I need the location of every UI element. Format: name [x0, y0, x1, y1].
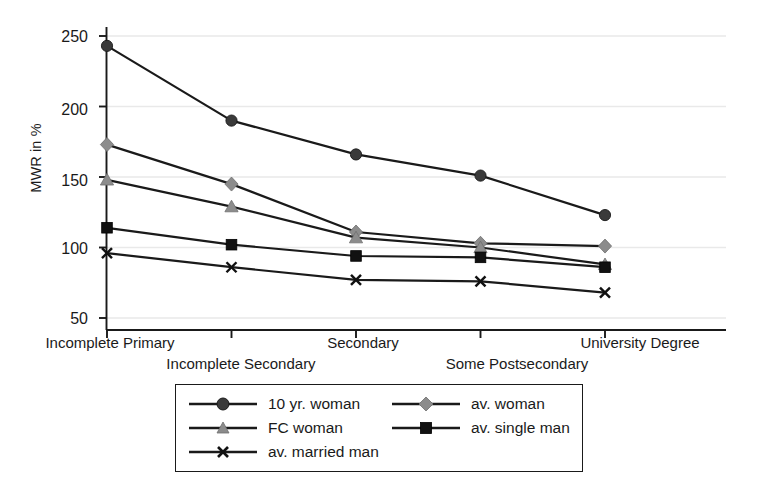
data-point	[475, 170, 486, 181]
chart-legend: 10 yr. woman FC woman av. married man	[175, 384, 583, 472]
data-point	[598, 239, 611, 253]
data-point	[225, 177, 238, 191]
data-point	[226, 239, 237, 250]
data-point	[100, 173, 113, 185]
chart-figure: MWR in % 250 200 150 100 50 Incomplete P…	[0, 0, 758, 498]
legend-entry-fc-woman: FC woman	[187, 416, 343, 440]
series-line	[107, 46, 605, 215]
triangle-marker-icon	[187, 418, 259, 438]
legend-label: 10 yr. woman	[268, 395, 360, 413]
data-point	[101, 40, 112, 51]
data-point	[102, 222, 113, 233]
data-point	[351, 251, 362, 262]
data-point	[100, 138, 113, 152]
circle-marker-icon	[187, 394, 259, 414]
legend-entry-av-woman: av. woman	[390, 392, 545, 416]
data-point	[350, 149, 361, 160]
legend-label: av. woman	[471, 395, 545, 413]
diamond-marker-icon	[390, 394, 462, 414]
data-point	[226, 115, 237, 126]
data-point	[475, 252, 486, 263]
data-point	[600, 262, 611, 273]
legend-label: av. single man	[471, 419, 570, 437]
legend-entry-10yr-woman: 10 yr. woman	[187, 392, 360, 416]
legend-label: av. married man	[268, 443, 379, 461]
series-10-yr-woman	[101, 40, 610, 220]
square-marker-icon	[390, 418, 462, 438]
legend-entry-av-married-man: av. married man	[187, 440, 379, 464]
legend-label: FC woman	[268, 419, 343, 437]
data-point	[599, 209, 610, 220]
legend-entry-av-single-man: av. single man	[390, 416, 570, 440]
x-marker-icon	[187, 442, 259, 462]
